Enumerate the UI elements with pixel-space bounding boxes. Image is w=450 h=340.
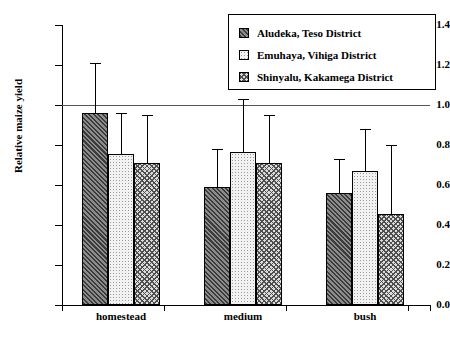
legend-item: Emuhaya, Vihiga District <box>239 44 429 66</box>
error-bar <box>95 63 96 113</box>
bar-medium-series2 <box>230 152 256 305</box>
error-bar <box>147 115 148 163</box>
y-axis-tick <box>55 265 62 266</box>
error-bar <box>121 113 122 154</box>
bar-bush-series2 <box>352 171 378 305</box>
x-axis-tick <box>286 305 287 311</box>
error-bar <box>391 145 392 214</box>
x-axis-tick <box>408 305 409 311</box>
error-bar-cap <box>386 145 397 146</box>
y-axis-tick <box>55 105 62 106</box>
y-axis-tick <box>55 65 62 66</box>
legend-item: Aludeka, Teso District <box>239 22 429 44</box>
error-bar-cap <box>142 115 153 116</box>
error-bar-cap <box>238 99 249 100</box>
error-bar <box>217 149 218 187</box>
x-axis-category-label: homestead <box>60 310 182 322</box>
error-bar-cap <box>90 63 101 64</box>
y-axis-tick <box>55 145 62 146</box>
error-bar-cap <box>360 129 371 130</box>
error-bar <box>365 129 366 171</box>
x-axis-line <box>62 305 430 306</box>
legend-swatch-icon <box>239 72 249 82</box>
x-axis-tick <box>430 305 431 311</box>
error-bar <box>339 159 340 193</box>
legend-swatch-icon <box>239 28 249 38</box>
chart-legend: Aludeka, Teso District Emuhaya, Vihiga D… <box>228 14 436 90</box>
error-bar-cap <box>334 159 345 160</box>
y-axis-tick <box>55 25 62 26</box>
x-axis-category-label: bush <box>304 310 426 322</box>
legend-label: Emuhaya, Vihiga District <box>257 49 376 61</box>
bar-bush-series1 <box>326 193 352 305</box>
x-axis-tick <box>164 305 165 311</box>
bar-medium-series3 <box>256 163 282 305</box>
error-bar <box>269 115 270 163</box>
error-bar-cap <box>212 149 223 150</box>
error-bar <box>243 99 244 152</box>
x-axis-category-label: medium <box>182 310 304 322</box>
error-bar-cap <box>116 113 127 114</box>
bar-homestead-series2 <box>108 154 134 305</box>
legend-swatch-icon <box>239 50 249 60</box>
legend-label: Shinyalu, Kakamega District <box>257 71 393 83</box>
y-axis-tick <box>55 305 62 306</box>
legend-label: Aludeka, Teso District <box>257 27 361 39</box>
error-bar-cap <box>264 115 275 116</box>
bar-homestead-series3 <box>134 163 160 305</box>
y-axis-title: Relative maize yield <box>12 56 24 196</box>
y-axis-tick <box>55 225 62 226</box>
y-axis-tick <box>55 185 62 186</box>
bar-medium-series1 <box>204 187 230 305</box>
bar-homestead-series1 <box>82 113 108 305</box>
bar-bush-series3 <box>378 214 404 305</box>
chart-figure: Relative maize yield 0.00.20.40.60.81.01… <box>0 0 450 340</box>
legend-item: Shinyalu, Kakamega District <box>239 66 429 88</box>
x-axis-tick <box>62 305 63 311</box>
